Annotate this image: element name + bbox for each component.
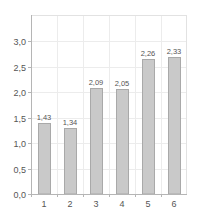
x-tick-label: 4 — [119, 199, 124, 209]
bar-value-label: 1,34 — [63, 118, 78, 127]
grid-lines — [31, 15, 187, 194]
bar-value-label: 2,33 — [167, 47, 182, 56]
y-tick-label: 0,5 — [13, 165, 26, 175]
y-tick-label: 3,0 — [13, 37, 26, 47]
bar — [65, 129, 77, 195]
bar — [143, 60, 155, 195]
x-axis-ticks: 123456 — [32, 194, 177, 209]
bar — [91, 89, 103, 195]
bar-value-label: 2,05 — [115, 79, 130, 88]
bar — [117, 90, 129, 195]
bar — [39, 124, 51, 195]
y-tick-label: 0,0 — [13, 190, 26, 200]
bar-value-label: 2,09 — [89, 78, 104, 87]
x-tick-label: 2 — [67, 199, 72, 209]
x-tick-label: 3 — [93, 199, 98, 209]
y-tick-label: 2,0 — [13, 88, 26, 98]
bar — [169, 58, 181, 195]
x-tick-label: 6 — [171, 199, 176, 209]
y-tick-label: 2,5 — [13, 63, 26, 73]
x-tick-label: 1 — [41, 199, 46, 209]
x-tick-label: 5 — [145, 199, 150, 209]
bar-chart: 0,00,51,01,52,02,53,0 123456 1,431,342,0… — [0, 0, 199, 219]
y-tick-label: 1,5 — [13, 114, 26, 124]
bar-value-label: 1,43 — [37, 113, 52, 122]
y-axis-ticks: 0,00,51,01,52,02,53,0 — [13, 37, 31, 200]
y-tick-label: 1,0 — [13, 139, 26, 149]
bar-value-label: 2,26 — [141, 49, 156, 58]
